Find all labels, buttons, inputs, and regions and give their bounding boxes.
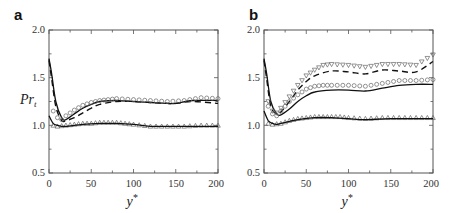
marker-circle-marker [308,86,312,90]
marker-circle-marker [304,87,308,91]
marker-circle-marker [408,79,412,83]
marker-circle-marker [397,79,401,83]
y-tick-1.5-a: 1.5 [32,72,45,83]
marker-circle-marker [177,99,181,103]
marker-circle-marker [55,116,59,120]
marker-circle-marker [330,83,334,87]
marker-circle-marker [375,82,379,86]
marker-circle-marker [352,84,356,88]
marker-circle-marker [363,84,367,88]
marker-circle-marker [313,84,317,88]
marker-triangle-down-marker [397,62,402,66]
x-tick-50-a: 50 [86,178,97,189]
marker-triangle-down-marker [403,63,408,67]
marker-circle-marker [414,79,418,83]
y-tick-1.0-b: 1.0 [247,120,260,131]
x-tick-150-b: 150 [383,178,399,189]
marker-triangle-down-marker [357,65,362,69]
marker-triangle-down-marker [414,63,419,67]
panel-b: b 2.0 1.5 1.0 0.5 0 50 100 150 200 y* [247,6,439,209]
marker-triangle-down-marker [287,95,292,99]
marker-circle-marker [325,83,329,87]
marker-triangle-down-marker [380,62,385,66]
marker-triangle-down-marker [325,63,330,67]
marker-circle-marker [369,83,373,87]
marker-triangle-down-marker [329,62,334,66]
marker-circle-marker [51,109,55,113]
y-tick-2.0-a: 2.0 [32,24,45,35]
marker-circle-marker [266,104,270,108]
marker-circle-marker [321,83,325,87]
marker-circle-marker [171,99,175,103]
marker-triangle-down-marker [386,62,391,66]
panel-label-b: b [249,6,258,23]
marker-circle-marker [81,103,85,107]
x-tick-100-a: 100 [126,178,142,189]
series-solid-line [49,59,218,120]
marker-triangle-down-marker [296,83,301,87]
y-tick-1.0-a: 1.0 [32,120,45,131]
marker-circle-marker [380,81,384,85]
marker-triangle-down-marker [304,74,309,78]
marker-circle-marker [205,96,209,100]
marker-circle-marker [85,102,89,106]
x-tick-100-b: 100 [341,178,357,189]
x-axis-title-b: y* [339,192,352,209]
y-axis-title-a: Prt [19,92,37,109]
y-tick-2.0-b: 2.0 [247,24,260,35]
marker-triangle-down-marker [300,79,305,83]
marker-circle-marker [347,83,351,87]
marker-triangle-down-marker [352,64,357,68]
marker-circle-marker [210,96,214,100]
marker-triangle-down-marker [308,71,313,75]
y-tick-1.5-b: 1.5 [247,72,260,83]
x-axis-title-a: y* [124,192,137,209]
panel-a: a 2.0 1.5 1.0 0.5 0 50 100 150 200 y* Pr… [14,6,224,209]
marker-circle-marker [341,83,345,87]
marker-circle-marker [386,80,390,84]
series-a [49,59,220,129]
marker-triangle-down-marker [419,60,424,64]
marker-circle-marker [420,78,424,82]
marker-circle-marker [296,93,300,97]
marker-triangle-down-marker [425,56,430,60]
figure: a 2.0 1.5 1.0 0.5 0 50 100 150 200 y* Pr… [0,0,450,213]
y-tick-0.5-b: 0.5 [247,167,260,178]
panel-label-a: a [14,6,23,23]
marker-triangle-down-marker [363,65,368,69]
x-tick-0-a: 0 [46,178,51,189]
marker-circle-marker [358,84,362,88]
marker-circle-marker [392,79,396,83]
marker-triangle-down-marker [408,63,413,67]
marker-circle-marker [77,106,81,110]
x-tick-0-b: 0 [261,178,266,189]
marker-circle-marker [72,108,76,112]
x-tick-50-b: 50 [301,178,312,189]
marker-circle-marker [403,79,407,83]
marker-circle-marker [300,90,304,94]
marker-triangle-down-marker [374,63,379,67]
marker-triangle-down-marker [312,68,317,72]
marker-triangle-down-marker [391,62,396,66]
series-dashed-line [49,61,218,122]
marker-circle-marker [199,96,203,100]
marker-circle-marker [425,78,429,82]
x-tick-200-a: 200 [208,178,224,189]
y-tick-0.5-a: 0.5 [32,167,45,178]
marker-circle-marker [64,114,68,118]
series-b [264,53,435,126]
marker-circle-marker [68,111,72,115]
x-tick-150-a: 150 [168,178,184,189]
marker-circle-marker [335,83,339,87]
marker-triangle-down-marker [346,63,351,67]
marker-circle-marker [317,84,321,88]
marker-triangle-down-marker [369,64,374,68]
marker-triangle-down-marker [335,63,340,67]
marker-triangle-down-marker [341,63,346,67]
x-tick-200-b: 200 [423,178,439,189]
